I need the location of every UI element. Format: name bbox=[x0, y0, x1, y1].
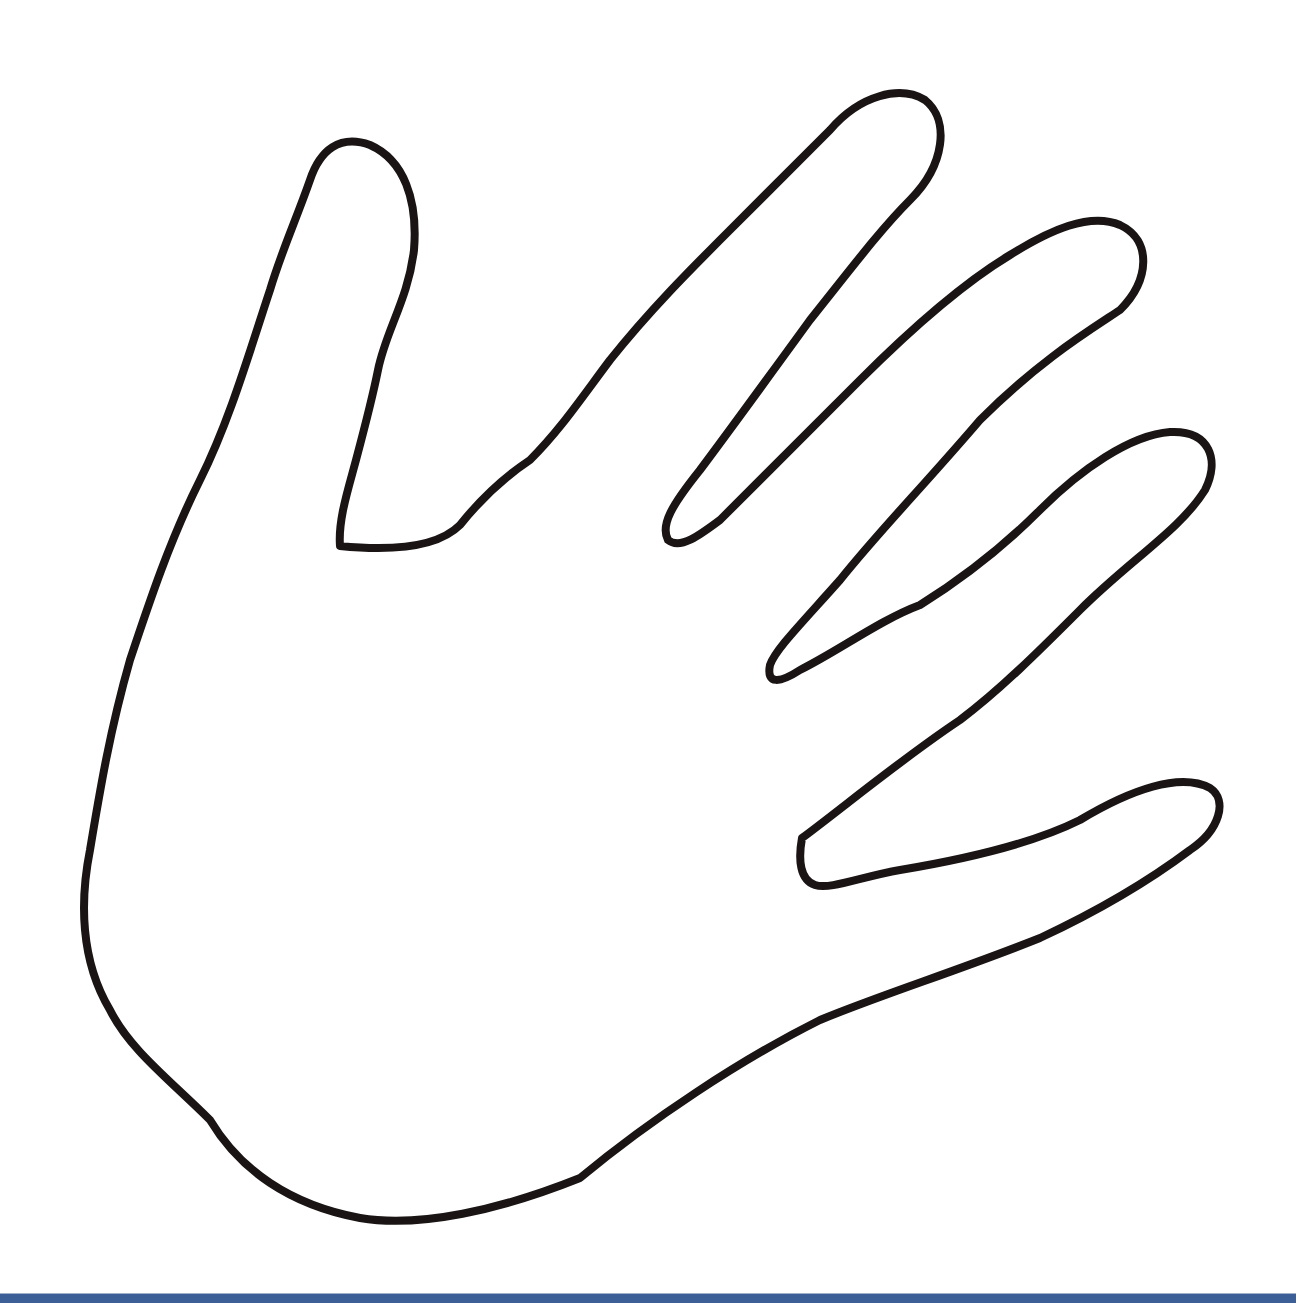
drawing-canvas bbox=[0, 0, 1296, 1294]
hand-outline-path bbox=[84, 93, 1219, 1221]
hand-outline-icon bbox=[0, 0, 1296, 1294]
bottom-border-bar bbox=[0, 1293, 1296, 1303]
